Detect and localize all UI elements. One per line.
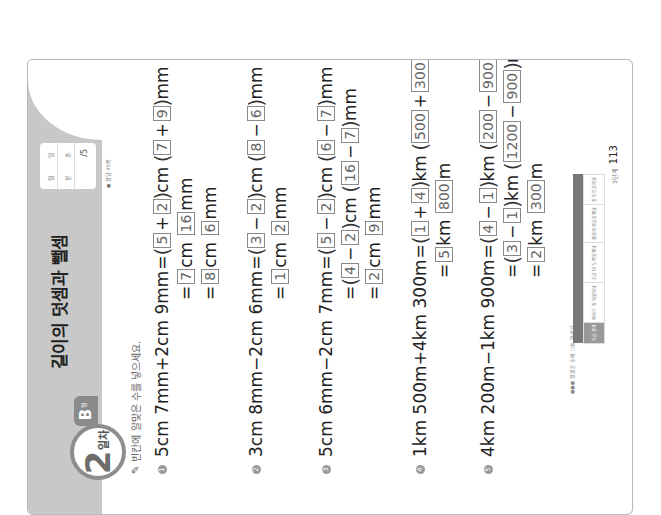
left-paren: ( — [338, 278, 362, 286]
answer-box[interactable]: 16 — [341, 161, 359, 185]
answer-box[interactable]: 4 — [341, 263, 359, 278]
problem-line: = 8 cm 6 mm — [198, 66, 222, 474]
page-number: 113 — [608, 145, 619, 164]
answer-box[interactable]: 1 — [479, 188, 497, 203]
answer-box[interactable]: 16 — [177, 212, 195, 236]
day-field-label: 일 — [46, 152, 55, 158]
minus-sign: − — [502, 105, 522, 119]
answer-box[interactable]: 4 — [479, 222, 497, 237]
worksheet-card: 2 일차 B 형 길이의 덧셈과 뺄셈 월 일 분 초 /5 ● 정답 45쪽 … — [27, 59, 633, 515]
answer-box[interactable]: 1 — [411, 222, 429, 237]
problem-1: 1 5cm 7mm+2cm 9mm = ( 5 + 2 ) cm ( 7 + 9… — [150, 66, 222, 474]
equals-sign: = — [434, 264, 454, 278]
unit-mm: mm — [340, 88, 360, 121]
table-header — [573, 282, 584, 322]
type-tab: B 형 — [74, 396, 98, 426]
problem-line: = ( 3 − 1 ) km ( 1200 − 900 ) m — [500, 59, 524, 474]
answer-box[interactable]: 7 — [317, 106, 335, 121]
answer-box[interactable]: 2 — [247, 199, 265, 214]
left-paren: ( — [244, 248, 268, 256]
answer-box[interactable]: 9 — [365, 221, 383, 236]
answer-box[interactable]: 900 — [503, 70, 521, 103]
answer-box[interactable]: 1 — [503, 208, 521, 223]
answer-box[interactable]: 2 — [153, 199, 171, 214]
answer-box[interactable]: 2 — [365, 269, 383, 284]
minus-sign: − — [340, 145, 360, 159]
right-paren: ) — [338, 120, 362, 128]
answer-box[interactable]: 7 — [153, 140, 171, 155]
day-number: 2 — [81, 451, 115, 475]
answer-box[interactable]: 1200 — [503, 121, 521, 163]
answer-box[interactable]: 800 — [435, 180, 453, 213]
unit-mm: mm — [176, 178, 196, 211]
left-paren: ( — [408, 236, 432, 244]
type-letter: B — [77, 409, 95, 420]
answer-box[interactable]: 2 — [527, 247, 545, 262]
answer-box[interactable]: 900 — [479, 59, 497, 92]
left-paren: ( — [338, 185, 362, 193]
answer-box[interactable]: 4 — [411, 188, 429, 203]
answer-box[interactable]: 5 — [317, 233, 335, 248]
answer-box[interactable]: 7 — [341, 128, 359, 143]
equals-sign: = — [410, 244, 430, 258]
problem-line: 1 5cm 7mm+2cm 9mm = ( 5 + 2 ) cm ( 7 + 9… — [150, 66, 174, 474]
table-cell[interactable]: 조금 더 노력할래요 — [584, 243, 605, 283]
answer-box[interactable]: 2 — [341, 230, 359, 245]
unit-km: km — [502, 175, 522, 201]
answer-box[interactable]: 3 — [503, 241, 521, 256]
answer-box[interactable]: 300 — [527, 180, 545, 213]
instruction-text: 빈칸에 알맞은 수를 넣으세요. — [128, 341, 143, 462]
month-label: 월 — [46, 175, 55, 181]
answer-box[interactable]: 8 — [247, 140, 265, 155]
answer-box[interactable]: 2 — [271, 221, 289, 236]
page-label: 3단계 — [610, 168, 619, 184]
answer-box[interactable]: 9 — [153, 106, 171, 121]
answer-box[interactable]: 8 — [201, 269, 219, 284]
answer-box[interactable]: 7 — [177, 269, 195, 284]
right-paren: ) — [476, 181, 500, 189]
date-row: 월 일 — [46, 143, 58, 189]
answer-box[interactable]: 5 — [435, 247, 453, 262]
minus-sign: − — [316, 216, 336, 230]
table-cell[interactable]: 열심히 연습할래요 — [584, 204, 605, 242]
unit-km: km — [410, 155, 430, 181]
unit-cm: cm — [270, 242, 290, 268]
unit-m: m — [526, 163, 546, 180]
minus-sign: − — [246, 216, 266, 230]
problem-5: 5 4km 200m−1km 900m = ( 4 − 1 ) km ( 200… — [476, 59, 548, 474]
problem-line: = 2 km 300 m — [524, 59, 548, 474]
answer-box[interactable]: 6 — [201, 221, 219, 236]
left-paren: ( — [150, 248, 174, 256]
right-paren: ) — [244, 99, 268, 107]
left-paren: ( — [408, 143, 432, 151]
answer-box[interactable]: 200 — [479, 110, 497, 143]
problem-line: = ( 4 − 2 ) cm ( 16 − 7 ) mm — [338, 66, 362, 474]
problem-line: = 2 cm 9 mm — [362, 66, 386, 474]
equals-sign: = — [502, 264, 522, 278]
answer-box[interactable]: 300 — [411, 59, 429, 92]
unit-cm: cm — [152, 167, 172, 193]
answer-box[interactable]: 3 — [247, 233, 265, 248]
problem-expression: 5cm 7mm+2cm 9mm — [152, 271, 172, 457]
unit-mm: mm — [246, 66, 266, 99]
right-paren: ) — [314, 192, 338, 200]
answer-box[interactable]: 5 — [153, 233, 171, 248]
table-cell[interactable]: 잘 모르겠어요 — [584, 175, 605, 205]
answer-box[interactable]: 6 — [317, 140, 335, 155]
equals-sign: = — [152, 255, 172, 269]
answer-box[interactable]: 2 — [317, 199, 335, 214]
plus-sign: + — [410, 94, 430, 108]
table-cell[interactable]: 이해가 잘 되었어요 — [584, 282, 605, 322]
right-paren: ) — [150, 99, 174, 107]
answer-box[interactable]: 500 — [411, 110, 429, 143]
unit-km: km — [526, 219, 546, 245]
problem-2: 2 3cm 8mm−2cm 6mm = ( 3 − 2 ) cm ( 8 − 6… — [244, 66, 292, 474]
right-paren: ) — [244, 192, 268, 200]
minus-sign: − — [340, 247, 360, 261]
equals-sign: = — [200, 286, 220, 300]
answer-box[interactable]: 6 — [247, 106, 265, 121]
equals-sign: = — [340, 286, 360, 300]
unit-cm: cm — [246, 167, 266, 193]
answer-box[interactable]: 1 — [271, 269, 289, 284]
minus-sign: − — [246, 123, 266, 137]
